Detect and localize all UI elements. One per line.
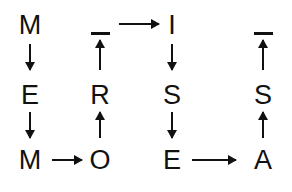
letter-node-r2c0: M: [10, 145, 50, 175]
arrow-head: [25, 62, 35, 71]
letter-node-r1c2: S: [152, 80, 192, 110]
arrow-right-overbar-to-i: [119, 17, 159, 31]
arrow-head: [228, 155, 237, 165]
arrow-down-s-to-e: [165, 112, 179, 138]
letter-node-r1c1: R: [80, 80, 120, 110]
arrow-head: [95, 39, 105, 48]
arrow-head: [25, 130, 35, 139]
overbar-node-r0c1: [91, 32, 110, 35]
letter-node-r1c0: E: [10, 80, 50, 110]
arrow-head: [258, 111, 268, 120]
arrow-head: [74, 155, 83, 165]
arrow-down-i-to-s: [165, 44, 179, 70]
arrow-head: [95, 111, 105, 120]
arrow-down-m-to-e: [23, 44, 37, 70]
arrow-down-e-to-m: [23, 112, 37, 138]
arrow-up-a-to-s: [256, 112, 270, 138]
letter-node-r2c1: O: [80, 145, 120, 175]
arrow-up-r-to-overbar: [93, 40, 107, 70]
arrow-head: [151, 19, 160, 29]
letter-node-r2c3: A: [243, 145, 283, 175]
arrow-head: [167, 130, 177, 139]
arrow-head: [258, 39, 268, 48]
letter-node-r2c2: E: [152, 145, 192, 175]
arrow-right-e-to-a: [192, 153, 236, 167]
letter-flow-diagram: M E M R O I S E S A: [0, 0, 292, 192]
arrow-up-o-to-r: [93, 112, 107, 138]
arrow-right-m-to-o: [52, 153, 82, 167]
letter-node-r0c0: M: [10, 10, 50, 40]
arrow-up-s-to-overbar: [256, 40, 270, 70]
overbar-node-r0c3: [254, 32, 273, 35]
arrow-head: [167, 62, 177, 71]
letter-node-r1c3: S: [243, 80, 283, 110]
